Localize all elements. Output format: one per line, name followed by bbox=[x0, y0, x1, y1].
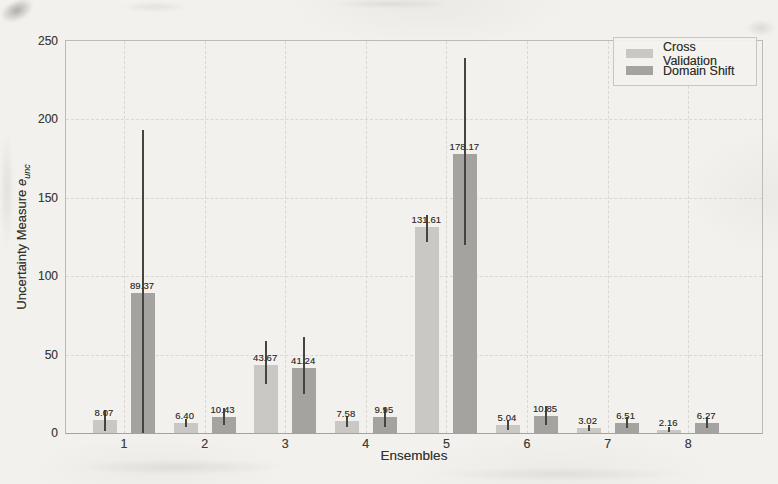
bar-value-label-ds-5: 178.17 bbox=[450, 141, 480, 152]
legend-label-domain-shift: Domain Shift bbox=[663, 64, 735, 78]
bar-value-label-cv-1: 8.07 bbox=[95, 407, 114, 418]
bar-value-label-cv-8: 2.16 bbox=[659, 417, 678, 428]
x-axis-label: Ensembles bbox=[65, 448, 763, 463]
bar-value-label-ds-1: 89.37 bbox=[130, 280, 154, 291]
gridline-v bbox=[205, 41, 206, 433]
y-axis-label: Uncertainty Measure eunc bbox=[14, 164, 32, 309]
bar-value-label-ds-3: 41.24 bbox=[291, 355, 315, 366]
legend-swatch-cross-validation bbox=[626, 49, 653, 58]
y-tick-label: 0 bbox=[26, 426, 58, 440]
scan-artifact bbox=[746, 20, 776, 36]
gridline-v bbox=[608, 41, 609, 433]
scan-artifact bbox=[330, 0, 450, 8]
bar-value-label-cv-6: 5.04 bbox=[498, 412, 517, 423]
legend-entry-domain-shift: Domain Shift bbox=[626, 62, 746, 79]
gridline-v bbox=[285, 41, 286, 433]
legend: Cross Validation Domain Shift bbox=[613, 37, 757, 86]
bar-cv-5 bbox=[415, 227, 439, 433]
gridline-h bbox=[66, 276, 762, 277]
gridline-v bbox=[688, 41, 689, 433]
bar-value-label-ds-4: 9.95 bbox=[374, 404, 393, 415]
figure: Uncertainty Measure eunc 050100150200250… bbox=[0, 0, 778, 484]
bar-value-label-ds-8: 6.27 bbox=[697, 410, 716, 421]
bar-value-label-cv-2: 6.40 bbox=[175, 410, 194, 421]
bar-value-label-ds-7: 6.51 bbox=[616, 410, 635, 421]
bar-value-label-cv-5: 131.61 bbox=[412, 214, 442, 225]
bar-value-label-cv-7: 3.02 bbox=[578, 415, 597, 426]
y-tick-label: 250 bbox=[26, 34, 58, 48]
scan-artifact bbox=[120, 2, 190, 12]
plot-area: 050100150200250123456788.076.4043.677.58… bbox=[65, 40, 763, 434]
gridline-h bbox=[66, 355, 762, 356]
gridline-v bbox=[366, 41, 367, 433]
y-tick-label: 50 bbox=[26, 348, 58, 362]
y-axis-label-symbol: e bbox=[14, 179, 29, 186]
y-tick-label: 200 bbox=[26, 112, 58, 126]
gridline-v bbox=[124, 41, 125, 433]
y-tick-label: 150 bbox=[26, 191, 58, 205]
gridline-v bbox=[527, 41, 528, 433]
gridline-v bbox=[446, 41, 447, 433]
scan-artifact bbox=[0, 0, 45, 31]
legend-swatch-domain-shift bbox=[626, 66, 653, 75]
gridline-h bbox=[66, 119, 762, 120]
scan-artifact bbox=[430, 468, 690, 480]
bar-value-label-cv-3: 43.67 bbox=[253, 352, 277, 363]
y-tick-label: 100 bbox=[26, 269, 58, 283]
y-axis-label-subscript: unc bbox=[22, 164, 32, 179]
scan-artifact bbox=[0, 130, 14, 250]
bar-value-label-ds-2: 10.43 bbox=[210, 404, 234, 415]
gridline-h bbox=[66, 198, 762, 199]
bar-value-label-cv-4: 7.58 bbox=[336, 408, 355, 419]
bar-value-label-ds-6: 10.85 bbox=[533, 403, 557, 414]
legend-entry-cross-validation: Cross Validation bbox=[626, 45, 746, 62]
